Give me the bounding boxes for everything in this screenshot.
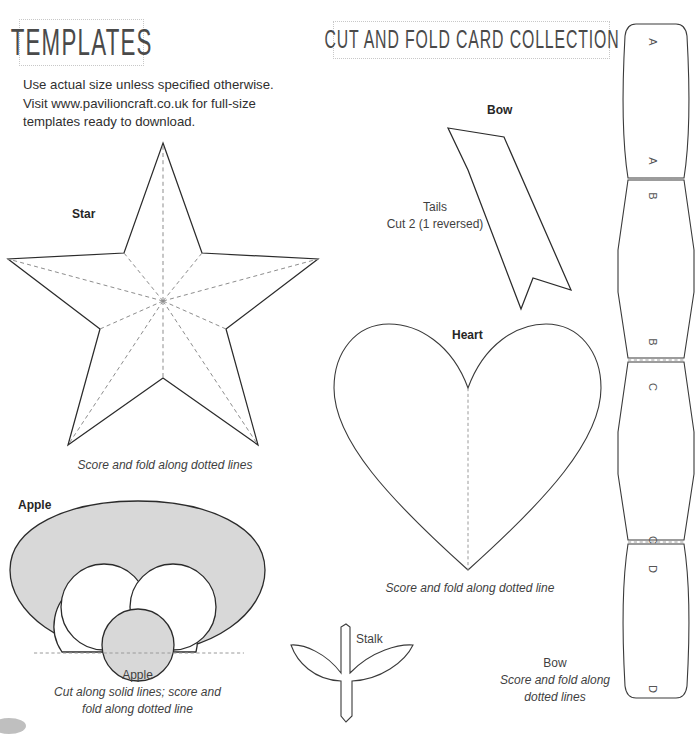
stalk-label: Stalk [356,631,416,648]
apple-caption-name: Apple [0,667,275,684]
heart-shape [334,324,601,570]
bow-strip-caption: Bow Score and fold along dotted lines [490,655,620,706]
strip-letter-b-bottom: B [647,338,659,345]
heart-caption: Score and fold along dotted line [355,580,585,597]
bow-caption-line-1: Score and fold along [490,672,620,689]
apple-shape [10,501,265,681]
star-caption: Score and fold along dotted lines [0,457,330,474]
strip-letter-d-top: D [647,565,659,573]
star-shape [8,143,318,445]
bow-caption-line-2: dotted lines [490,689,620,706]
strip-letter-b-top: B [647,192,659,199]
tails-instruction: Cut 2 (1 reversed) [355,216,515,233]
strip-letter-d-bottom: D [647,685,659,693]
apple-caption-line-1: Cut along solid lines; score and [0,684,275,701]
tails-name: Tails [355,199,515,216]
apple-label: Apple [18,498,51,512]
tails-bow-label: Bow [487,103,512,117]
bow-strip-fold-lines [628,179,684,542]
apple-caption-line-2: fold along dotted line [0,701,275,718]
strip-letter-c-bottom: C [647,536,659,544]
star-label: Star [72,207,95,221]
strip-letter-a-bottom: A [647,157,659,164]
apple-caption: Apple Cut along solid lines; score and f… [0,667,275,718]
bow-strip-shape [618,24,694,698]
strip-letter-a-top: A [647,38,659,45]
bow-caption-name: Bow [490,655,620,672]
strip-letter-c-top: C [647,383,659,391]
heart-label: Heart [452,328,483,342]
